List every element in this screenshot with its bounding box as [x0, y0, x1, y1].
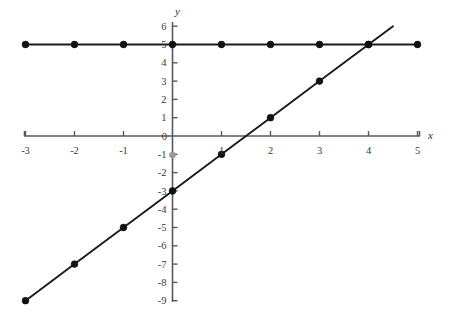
y-tick-label: -6: [158, 240, 167, 251]
data-point: [22, 297, 29, 304]
y-tick-label: -3: [158, 186, 167, 197]
y-tick-label: -4: [158, 204, 167, 215]
x-tick-label: 1: [219, 145, 224, 156]
origin-label: 0: [162, 131, 167, 142]
x-axis-label: x: [427, 129, 433, 141]
y-tick-labels: 654321-1-2-3-4-5-6-7-8-9: [158, 21, 168, 307]
data-point: [316, 41, 323, 48]
data-point: [267, 41, 274, 48]
y-axis-label: y: [174, 5, 180, 17]
data-point: [316, 78, 323, 85]
data-point: [71, 261, 78, 268]
axis-artifact-marker: [169, 152, 175, 158]
data-point: [414, 41, 421, 48]
y-tick-label: -7: [158, 259, 167, 270]
y-tick-label: -8: [158, 277, 167, 288]
data-point: [22, 41, 29, 48]
series-lines: [26, 26, 418, 301]
data-point: [169, 41, 176, 48]
y-tick-label: 2: [161, 94, 166, 105]
x-tick-label: -3: [21, 145, 30, 156]
data-point: [120, 224, 127, 231]
data-point: [267, 114, 274, 121]
y-tick-label: 3: [161, 76, 166, 87]
data-point: [365, 41, 372, 48]
x-tick-label: 3: [317, 145, 322, 156]
y-tick-label: -1: [158, 149, 167, 160]
x-tick-label: -2: [70, 145, 79, 156]
x-tick-label: 2: [268, 145, 273, 156]
y-tick-label: -5: [158, 222, 167, 233]
data-point: [169, 188, 176, 195]
y-tick-label: -9: [158, 295, 167, 306]
x-tick-labels: -3-2-112345: [21, 145, 420, 156]
series-line-1: [26, 26, 394, 301]
y-tick-label: 1: [161, 112, 166, 123]
cartesian-plot: -3-2-112345 654321-1-2-3-4-5-6-7-8-9 0 x…: [0, 0, 452, 322]
y-tick-label: 6: [161, 21, 166, 32]
graph-canvas: -3-2-112345 654321-1-2-3-4-5-6-7-8-9 0 x…: [0, 0, 452, 322]
y-tick-label: -2: [158, 167, 167, 178]
y-tick-label: 4: [161, 57, 167, 68]
y-tick-label: 5: [161, 39, 166, 50]
x-tick-label: 4: [366, 145, 372, 156]
data-point: [218, 41, 225, 48]
series-markers: [22, 41, 421, 304]
x-tick-label: 5: [415, 145, 420, 156]
axes-group: [24, 22, 420, 302]
data-point: [71, 41, 78, 48]
data-point: [120, 41, 127, 48]
x-tick-label: -1: [119, 145, 128, 156]
